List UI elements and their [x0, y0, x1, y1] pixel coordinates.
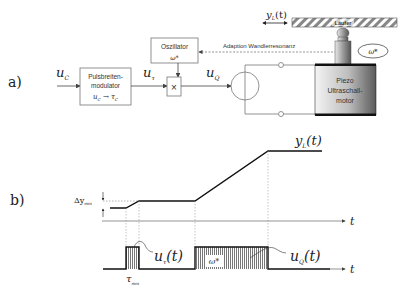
- motor-shaft: [335, 28, 351, 65]
- terminal-top: [279, 63, 284, 68]
- piezo-control-diagram: a) uC Pulsbreiten- modulator uC → τC uτ …: [0, 0, 401, 289]
- pwm-modulator-block: Pulsbreiten- modulator uC → τC: [80, 68, 131, 105]
- slider-laeufer: Läufer yL(t): [263, 9, 397, 27]
- delta-y-min-marker: Δymin: [74, 192, 139, 217]
- svg-text:×: ×: [171, 82, 177, 93]
- section-label-a: a): [8, 74, 22, 90]
- svg-text:uτ(t): uτ(t): [154, 248, 183, 265]
- feedback-path: Adaption Wandlerresonanz: [199, 43, 340, 52]
- svg-text:yL(t): yL(t): [294, 133, 322, 149]
- pwm-output-signal: uτ: [131, 65, 167, 86]
- svg-text:Piezo: Piezo: [336, 77, 354, 84]
- svg-text:Adaption Wandlerresonanz: Adaption Wandlerresonanz: [223, 43, 295, 49]
- svg-text:uC: uC: [56, 65, 69, 81]
- svg-text:Ultraschall-: Ultraschall-: [327, 87, 363, 94]
- svg-text:t: t: [350, 263, 355, 276]
- section-label-b: b): [10, 192, 24, 208]
- tau-min-label: τmin: [126, 273, 140, 286]
- svg-text:uC → τC: uC → τC: [93, 93, 118, 102]
- svg-text:uQ(t): uQ(t): [290, 248, 321, 265]
- oscillator-block: Oszillator ω*: [151, 38, 198, 77]
- time-axis-upper: t: [102, 215, 355, 228]
- svg-text:t: t: [350, 215, 355, 228]
- multiplier-output-signal: uQ: [181, 65, 231, 86]
- voltage-source: [231, 63, 315, 117]
- terminal-bottom: [279, 112, 284, 117]
- svg-text:Pulsbreiten-: Pulsbreiten-: [88, 73, 123, 80]
- piezo-motor: Piezo Ultraschall- motor: [315, 64, 376, 117]
- svg-text:Oszillator: Oszillator: [161, 43, 189, 50]
- svg-text:Δymin: Δymin: [74, 196, 92, 206]
- svg-text:Läufer: Läufer: [335, 20, 353, 26]
- position-curve: yL(t): [110, 133, 322, 208]
- svg-text:ω*: ω*: [209, 257, 220, 266]
- input-signal-uc: uC: [56, 65, 80, 86]
- pulse-short-label: uτ(t): [134, 241, 183, 265]
- svg-text:yL(t): yL(t): [265, 9, 287, 21]
- svg-text:uQ: uQ: [206, 65, 219, 81]
- svg-text:motor: motor: [336, 97, 355, 104]
- multiplier-block: ×: [167, 77, 181, 96]
- svg-text:modulator: modulator: [91, 82, 121, 89]
- svg-text:ω*: ω*: [368, 48, 378, 56]
- svg-text:uτ: uτ: [143, 65, 155, 81]
- rotation-indicator: ω*: [358, 44, 388, 58]
- svg-text:ω*: ω*: [170, 54, 179, 62]
